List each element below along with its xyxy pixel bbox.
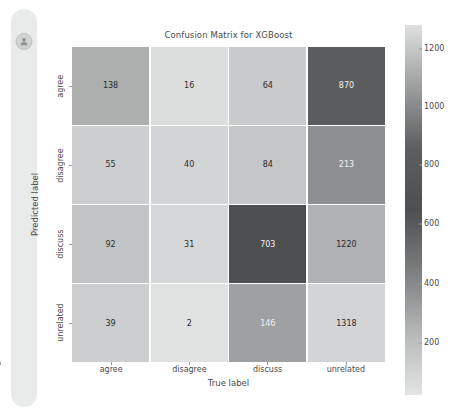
heatmap-cell-agree-discuss[interactable]: 64	[229, 47, 306, 125]
heatmap-cell-agree-disagree[interactable]: 16	[151, 47, 228, 125]
colorbar-tick-200: 200	[422, 338, 439, 347]
heatmap-cell-disagree-unrelated[interactable]: 213	[308, 126, 385, 204]
y-tick-disagree: disagree	[50, 126, 70, 205]
heatmap-cell-unrelated-unrelated[interactable]: 1318	[308, 284, 385, 362]
cell-value: 31	[184, 240, 194, 249]
heatmap-cell-disagree-agree[interactable]: 55	[72, 126, 149, 204]
y-tick-unrelated: unrelated	[50, 283, 70, 362]
cell-value: 92	[105, 240, 115, 249]
screenshot-root: Confusion Matrix for XGBoost Predicted l…	[0, 0, 462, 416]
heatmap-cell-disagree-disagree[interactable]: 40	[151, 126, 228, 204]
heatmap-cell-unrelated-agree[interactable]: 39	[72, 284, 149, 362]
cell-value: 703	[260, 240, 275, 249]
heatmap-cell-agree-agree[interactable]: 138	[72, 47, 149, 125]
cell-value: 1220	[336, 240, 356, 249]
heatmap-cell-unrelated-discuss[interactable]: 146	[229, 284, 306, 362]
x-tick-discuss: discuss	[229, 365, 307, 378]
x-tick-labels: agree disagree discuss unrelated	[72, 365, 385, 378]
heatmap-cell-unrelated-disagree[interactable]: 2	[151, 284, 228, 362]
chart-title: Confusion Matrix for XGBoost	[72, 30, 385, 40]
colorbar-tick-600: 600	[422, 219, 439, 228]
x-tick-agree: agree	[72, 365, 150, 378]
cell-value: 1318	[336, 319, 356, 328]
heatmap-cell-discuss-agree[interactable]: 92	[72, 205, 149, 283]
heatmap-grid: 138 16 64 870 55 40 84 213 92 31 703 122…	[72, 47, 385, 362]
colorbar-tick-400: 400	[422, 279, 439, 288]
y-axis-label: Predicted label	[28, 47, 42, 362]
heatmap-cell-disagree-discuss[interactable]: 84	[229, 126, 306, 204]
cell-value: 16	[184, 81, 194, 90]
heatmap-cell-discuss-unrelated[interactable]: 1220	[308, 205, 385, 283]
cell-value: 40	[184, 160, 194, 169]
x-tick-disagree: disagree	[150, 365, 228, 378]
heatmap-cell-agree-unrelated[interactable]: 870	[308, 47, 385, 125]
y-tick-agree: agree	[50, 47, 70, 126]
cell-value: 213	[339, 160, 354, 169]
colorbar[interactable]	[405, 25, 422, 395]
confusion-matrix-figure: Confusion Matrix for XGBoost Predicted l…	[0, 0, 462, 416]
colorbar-gradient	[405, 25, 422, 395]
colorbar-tick-800: 800	[422, 160, 439, 169]
heatmap-cell-discuss-disagree[interactable]: 31	[151, 205, 228, 283]
colorbar-tick-1000: 1000	[422, 102, 444, 111]
cell-value: 870	[339, 81, 354, 90]
y-tick-labels: agree disagree discuss unrelated	[50, 47, 72, 362]
colorbar-tick-labels: 1200 1000 800 600 400 200	[422, 25, 462, 395]
cell-value: 64	[263, 81, 273, 90]
cell-value: 84	[263, 160, 273, 169]
cell-value: 146	[260, 319, 275, 328]
heatmap-cell-discuss-discuss[interactable]: 703	[229, 205, 306, 283]
x-axis-label: True label	[72, 378, 385, 388]
y-tick-discuss: discuss	[50, 205, 70, 284]
colorbar-tick-1200: 1200	[422, 44, 444, 53]
cell-value: 2	[187, 319, 192, 328]
cell-value: 138	[103, 81, 118, 90]
cell-value: 55	[105, 160, 115, 169]
cell-value: 39	[105, 319, 115, 328]
x-tickmark-1	[0, 362, 1, 365]
x-tick-unrelated: unrelated	[307, 365, 385, 378]
